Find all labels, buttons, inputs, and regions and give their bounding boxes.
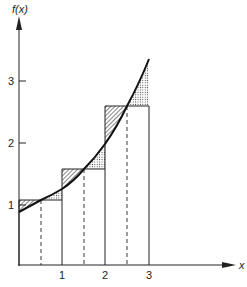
shaded-regions [19, 59, 149, 212]
x-tick-label-2: 2 [102, 269, 108, 281]
riemann-sum-diagram: f(x) x 1 2 3 1 2 3 [0, 0, 247, 287]
y-tick-label-3: 3 [8, 75, 14, 87]
x-tick-label-3: 3 [146, 269, 152, 281]
rectangle-1 [19, 200, 62, 265]
x-axis-arrow-icon [222, 262, 236, 268]
function-curve [19, 59, 149, 212]
y-axis-arrow-icon [16, 16, 22, 30]
y-axis-label: f(x) [12, 3, 28, 15]
x-axis-label: x [238, 259, 245, 271]
x-tick-label-1: 1 [59, 269, 65, 281]
y-tick-label-1: 1 [8, 199, 14, 211]
axes [18, 26, 228, 266]
y-tick-label-2: 2 [8, 137, 14, 149]
